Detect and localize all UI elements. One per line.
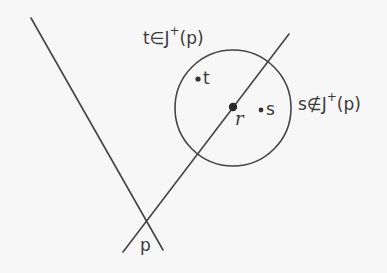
label-s-notin-prefix: s∉J [298, 94, 327, 114]
label-t: t [203, 70, 210, 87]
point-s [259, 108, 264, 113]
label-t-in-suffix: (p) [180, 28, 204, 48]
label-p: p [140, 237, 151, 254]
point-t [195, 76, 200, 81]
label-s-notin-sup: + [327, 90, 337, 104]
causal-diagram: t∈J+(p) s∉J+(p) t r s p [0, 0, 387, 273]
label-t-in-sup: + [170, 24, 180, 38]
label-r: r [235, 110, 244, 128]
left-light-cone-line [31, 18, 163, 250]
label-s-not-in-causal-future: s∉J+(p) [298, 96, 361, 113]
label-s: s [266, 101, 275, 118]
label-t-in-causal-future: t∈J+(p) [143, 30, 204, 47]
right-light-cone-line [123, 34, 289, 252]
label-t-in-prefix: t∈J [143, 28, 170, 48]
label-s-notin-suffix: (p) [337, 94, 361, 114]
